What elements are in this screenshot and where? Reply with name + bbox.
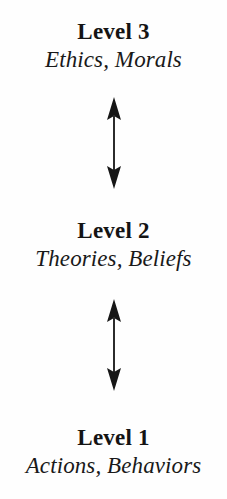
connector-level3-level2 — [100, 97, 128, 189]
level-3-title: Level 3 — [0, 18, 227, 46]
level-2-subtitle: Theories, Beliefs — [0, 245, 227, 274]
level-2-title: Level 2 — [0, 217, 227, 245]
double-headed-vertical-arrow-icon — [100, 97, 128, 189]
level-block-3: Level 3 Ethics, Morals — [0, 18, 227, 75]
level-block-2: Level 2 Theories, Beliefs — [0, 217, 227, 274]
double-headed-vertical-arrow-icon — [100, 299, 128, 391]
level-1-subtitle: Actions, Behaviors — [0, 452, 227, 481]
connector-level2-level1 — [100, 299, 128, 391]
level-1-title: Level 1 — [0, 424, 227, 452]
level-block-1: Level 1 Actions, Behaviors — [0, 424, 227, 481]
level-3-subtitle: Ethics, Morals — [0, 46, 227, 75]
hierarchy-diagram: Level 3 Ethics, Morals Level 2 Theories,… — [0, 0, 227, 499]
